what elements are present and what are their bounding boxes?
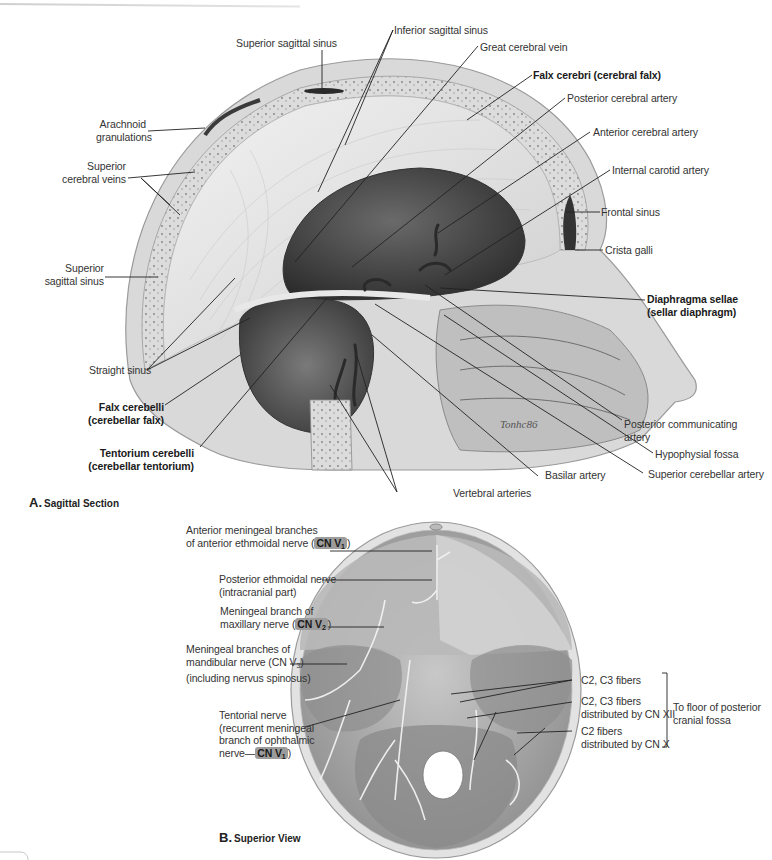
label-posterior-ethmoidal-nerve: Posterior ethmoidal nerve (intracranial …: [219, 573, 336, 598]
label-floor-posterior-cranial-fossa: To floor of posterior cranial fossa: [673, 701, 761, 726]
label-c2-c3-fibers: C2, C3 fibers: [581, 674, 641, 687]
label-c2-c3-fibers-cn-xii: C2, C3 fibers distributed by CN XII: [581, 695, 675, 720]
label-hypophysial-fossa: Hypophysial fossa: [655, 448, 739, 461]
label-great-cerebral-vein: Great cerebral vein: [480, 41, 567, 54]
figure-root: Tonhc86: [0, 0, 772, 860]
caption-panel-a: A.Sagittal Section: [29, 495, 119, 510]
superior-sagittal-sinus-shape: [304, 88, 344, 94]
label-meningeal-branches-mandibular: Meningeal branches of mandibular nerve (…: [186, 643, 311, 685]
label-tentorial-nerve: Tentorial nerve (recurrent meningeal bra…: [219, 709, 314, 763]
label-vertebral-arteries: Vertebral arteries: [453, 487, 531, 500]
label-straight-sinus: Straight sinus: [89, 364, 151, 377]
label-c2-fibers-cn-x: C2 fibers distributed by CN X: [581, 725, 670, 750]
cn-v1-badge: CN V1: [314, 537, 346, 549]
page-corner-decoration: [0, 852, 28, 860]
label-frontal-sinus: Frontal sinus: [601, 206, 660, 219]
label-diaphragma-sellae: Diaphragma sellae (sellar diaphragm): [647, 293, 738, 318]
label-meningeal-branch-maxillary: Meningeal branch of maxillary nerve (CN …: [220, 605, 331, 634]
label-anterior-meningeal-branches: Anterior meningeal branches of anterior …: [186, 524, 350, 553]
label-falx-cerebri: Falx cerebri (cerebral falx): [533, 69, 661, 82]
label-crista-galli: Crista galli: [605, 244, 653, 257]
label-basilar-artery: Basilar artery: [545, 469, 605, 482]
label-posterior-cerebral-artery: Posterior cerebral artery: [567, 92, 677, 105]
cn-v1-badge-tentorial: CN V1: [255, 747, 287, 759]
label-superior-cerebellar-artery: Superior cerebellar artery: [648, 468, 764, 481]
caption-panel-b: B.Superior View: [219, 830, 301, 845]
label-anterior-cerebral-artery: Anterior cerebral artery: [593, 126, 698, 139]
svg-text:Tonhc86: Tonhc86: [500, 418, 538, 430]
label-superior-sagittal-sinus-top: Superior sagittal sinus: [236, 37, 337, 50]
cn-v2-badge: CN V2: [295, 618, 327, 630]
label-posterior-communicating-artery: Posterior communicating artery: [624, 418, 737, 443]
label-superior-sagittal-sinus-left: Superior sagittal sinus: [38, 262, 104, 287]
label-inferior-sagittal-sinus: Inferior sagittal sinus: [394, 24, 488, 37]
label-superior-cerebral-veins: Superior cerebral veins: [56, 160, 126, 185]
label-tentorium-cerebelli: Tentorium cerebelli (cerebellar tentoriu…: [82, 447, 194, 472]
label-internal-carotid-artery: Internal carotid artery: [612, 164, 709, 177]
label-falx-cerebelli: Falx cerebelli (cerebellar falx): [80, 401, 164, 426]
label-arachnoid-granulations: Arachnoid granulations: [96, 118, 146, 143]
